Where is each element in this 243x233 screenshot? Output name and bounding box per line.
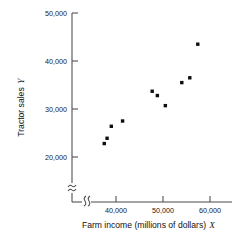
x-axis-symbol: X (208, 220, 215, 230)
x-axis-tick-label: 40,000 (105, 206, 127, 215)
data-point (180, 81, 183, 84)
data-point (164, 104, 167, 107)
y-axis-ticks: 20,00030,00040,00050,000 (45, 9, 78, 162)
data-point (103, 142, 106, 145)
y-axis-tick-label: 30,000 (45, 105, 67, 114)
data-point (121, 119, 124, 122)
y-axis-tick-label: 40,000 (45, 57, 67, 66)
data-point (188, 76, 191, 79)
x-axis-title: Farm income (millions of dollars) (82, 220, 206, 230)
data-point (110, 125, 113, 128)
data-point (156, 94, 159, 97)
y-axis-title: Tractor sales (16, 87, 26, 136)
y-axis-break-icon (68, 185, 76, 191)
data-point (150, 90, 153, 93)
x-axis-ticks: 40,00050,00060,000 (105, 196, 221, 215)
x-axis-tick-label: 50,000 (152, 206, 174, 215)
data-point (105, 137, 108, 140)
chart-canvas: 20,00030,00040,00050,000 40,00050,00060,… (0, 0, 243, 233)
y-axis-tick-label: 50,000 (45, 9, 67, 18)
data-points-group (103, 43, 200, 146)
y-axis-tick-label: 20,000 (45, 153, 67, 162)
x-axis-break-icon (84, 196, 90, 206)
y-axis-symbol: Y (16, 78, 26, 84)
x-axis-tick-label: 60,000 (199, 206, 221, 215)
axes-group (68, 13, 232, 206)
data-point (196, 43, 199, 46)
scatter-plot-figure: 20,00030,00040,00050,000 40,00050,00060,… (0, 0, 243, 233)
